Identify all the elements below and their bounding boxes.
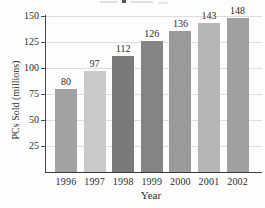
- y-tick-label: 100: [13, 63, 39, 73]
- cropped-title-fragment: [100, 1, 118, 3]
- y-axis-line: [45, 15, 46, 172]
- bar-1996: [55, 89, 77, 172]
- x-tick-label: 2002: [221, 176, 255, 188]
- bar-1999: [141, 41, 163, 172]
- cropped-title-fragment: [158, 2, 168, 4]
- bar-2002: [227, 18, 249, 172]
- x-axis-title: Year: [111, 189, 191, 201]
- bar-value-label: 112: [108, 43, 138, 54]
- x-axis-line: [45, 172, 262, 174]
- bar-value-label: 148: [223, 5, 253, 16]
- bar-chart-figure: PCs Sold (millions) 25507510012515080199…: [0, 0, 265, 208]
- bar-2001: [198, 23, 220, 172]
- bar-value-label: 143: [194, 10, 224, 21]
- cropped-title-fragment: [122, 0, 126, 3]
- bar-2000: [169, 31, 191, 172]
- gridline: [46, 16, 262, 17]
- bar-1997: [84, 71, 106, 172]
- cropped-title-fragment: [131, 1, 153, 3]
- y-tick-label: 125: [13, 37, 39, 47]
- y-tick-label: 75: [13, 89, 39, 99]
- y-tick-label: 50: [13, 115, 39, 125]
- bar-1998: [112, 56, 134, 172]
- bar-value-label: 80: [51, 76, 81, 87]
- y-tick-label: 150: [13, 11, 39, 21]
- bar-value-label: 126: [137, 28, 167, 39]
- bar-value-label: 136: [165, 18, 195, 29]
- y-tick-label: 25: [13, 141, 39, 151]
- bar-value-label: 97: [80, 58, 110, 69]
